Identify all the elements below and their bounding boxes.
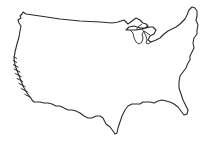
hatched-region <box>8 50 38 105</box>
us-outline-svg <box>0 0 209 142</box>
us-border-outline <box>14 7 198 134</box>
us-map: Contiguous United States outline West co… <box>0 0 209 142</box>
